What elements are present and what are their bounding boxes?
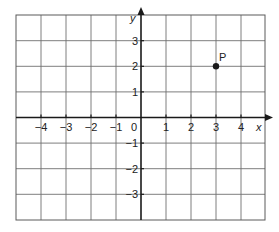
data-points: P	[213, 51, 227, 69]
point-marker	[213, 63, 219, 69]
x-tick-label: −2	[85, 121, 98, 133]
x-tick-label: −4	[35, 121, 48, 133]
x-tick-label: 3	[213, 121, 219, 133]
x-tick-label: 2	[188, 121, 194, 133]
x-tick-label: 4	[238, 121, 244, 133]
y-tick-label: −1	[125, 137, 138, 149]
y-tick-label: 3	[132, 35, 138, 47]
y-axis-label: y	[129, 12, 137, 24]
y-tick-label: −2	[125, 163, 138, 175]
x-axis-label: x	[255, 121, 262, 133]
point-label: P	[219, 51, 226, 63]
y-tick-label: 1	[132, 86, 138, 98]
origin-label: 0	[131, 121, 137, 133]
x-tick-label: 1	[163, 121, 169, 133]
y-tick-label: −3	[125, 188, 138, 200]
axes	[16, 7, 273, 220]
y-axis-arrow-icon	[138, 7, 145, 15]
x-tick-label: −1	[110, 121, 123, 133]
y-tick-label: 2	[132, 60, 138, 72]
x-axis-arrow-icon	[265, 114, 273, 121]
coordinate-plane: −4−3−2−11234−3−2−1123 0 x y P	[0, 0, 279, 232]
x-tick-label: −3	[60, 121, 73, 133]
